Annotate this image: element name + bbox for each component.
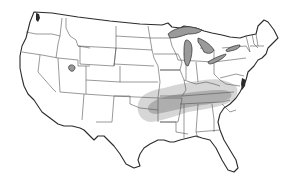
chesapeake-bay [241,78,246,90]
us-outline [20,12,278,172]
us-map [0,0,288,187]
map-figure [0,0,288,187]
great-salt-lake [69,65,75,71]
